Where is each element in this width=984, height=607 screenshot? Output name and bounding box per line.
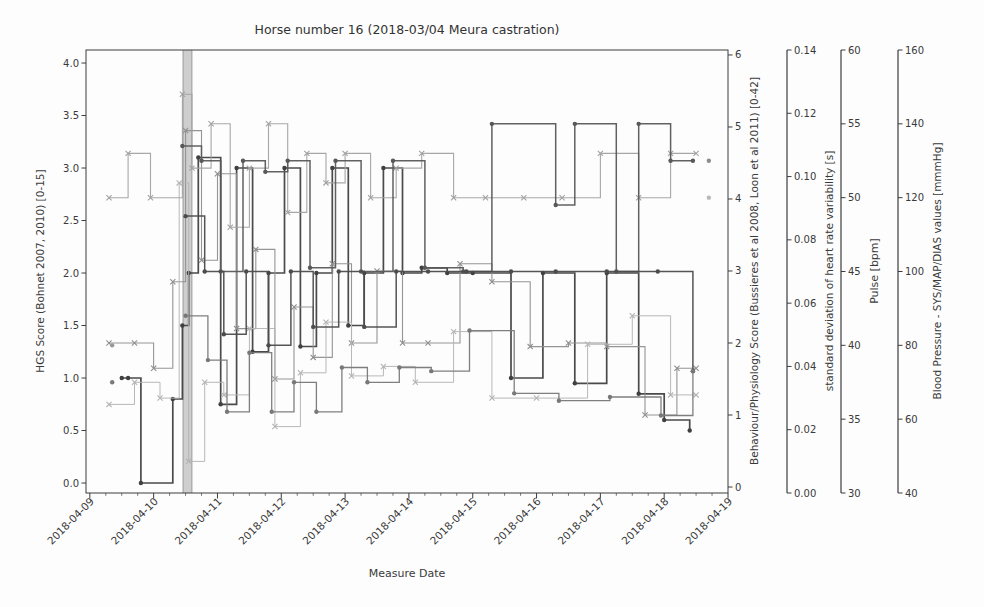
series-bp [183, 314, 695, 418]
svg-text:60: 60 [905, 414, 918, 425]
svg-text:4: 4 [735, 193, 741, 204]
svg-text:0.0: 0.0 [63, 478, 79, 489]
data-series [106, 92, 698, 486]
svg-text:2018-04-19: 2018-04-19 [683, 495, 735, 547]
svg-text:5: 5 [735, 121, 741, 132]
svg-text:2.5: 2.5 [63, 215, 79, 226]
svg-text:2018-04-18: 2018-04-18 [619, 495, 671, 547]
svg-text:35: 35 [848, 414, 861, 425]
svg-text:1: 1 [735, 410, 741, 421]
svg-text:2018-04-10: 2018-04-10 [108, 495, 160, 547]
svg-text:140: 140 [905, 118, 924, 129]
svg-text:2.0: 2.0 [63, 268, 79, 279]
svg-text:100: 100 [905, 266, 924, 277]
svg-text:120: 120 [905, 192, 924, 203]
series-hgs [120, 155, 692, 485]
svg-text:0.02: 0.02 [794, 424, 816, 435]
figure: Horse number 16 (2018-03/04 Meura castra… [0, 0, 984, 607]
svg-text:0.14: 0.14 [794, 45, 816, 56]
svg-text:2018-04-13: 2018-04-13 [300, 495, 352, 547]
svg-text:0.00: 0.00 [794, 488, 816, 499]
axes-ticks: 0.00.51.01.52.02.53.03.54.001234560.000.… [45, 45, 924, 547]
svg-text:3: 3 [735, 265, 741, 276]
svg-text:0.04: 0.04 [794, 361, 816, 372]
svg-text:60: 60 [848, 45, 861, 56]
svg-text:1.5: 1.5 [63, 320, 79, 331]
svg-text:80: 80 [905, 340, 918, 351]
svg-text:50: 50 [848, 192, 861, 203]
svg-text:40: 40 [848, 340, 861, 351]
svg-text:0: 0 [735, 482, 741, 493]
svg-text:3.5: 3.5 [63, 110, 79, 121]
svg-text:2018-04-17: 2018-04-17 [555, 495, 607, 547]
svg-text:6: 6 [735, 49, 741, 60]
svg-text:4.0: 4.0 [63, 58, 79, 69]
series-bp [183, 214, 695, 373]
svg-text:2018-04-11: 2018-04-11 [172, 495, 224, 547]
svg-text:2018-04-15: 2018-04-15 [428, 495, 480, 547]
svg-text:0.12: 0.12 [794, 108, 816, 119]
svg-text:0.08: 0.08 [794, 234, 816, 245]
svg-text:3.0: 3.0 [63, 163, 79, 174]
svg-text:0.06: 0.06 [794, 298, 816, 309]
svg-text:160: 160 [905, 45, 924, 56]
svg-text:30: 30 [848, 488, 861, 499]
svg-text:45: 45 [848, 266, 861, 277]
svg-text:2: 2 [735, 338, 741, 349]
svg-text:0.5: 0.5 [63, 425, 79, 436]
svg-text:55: 55 [848, 118, 861, 129]
svg-text:1.0: 1.0 [63, 373, 79, 384]
svg-text:40: 40 [905, 488, 918, 499]
svg-text:2018-04-14: 2018-04-14 [364, 495, 416, 547]
chart-canvas: 0.00.51.01.52.02.53.03.54.001234560.000.… [0, 0, 984, 607]
svg-text:0.10: 0.10 [794, 171, 816, 182]
svg-text:2018-04-12: 2018-04-12 [236, 495, 288, 547]
svg-text:2018-04-09: 2018-04-09 [45, 495, 97, 547]
svg-text:2018-04-16: 2018-04-16 [491, 495, 543, 547]
